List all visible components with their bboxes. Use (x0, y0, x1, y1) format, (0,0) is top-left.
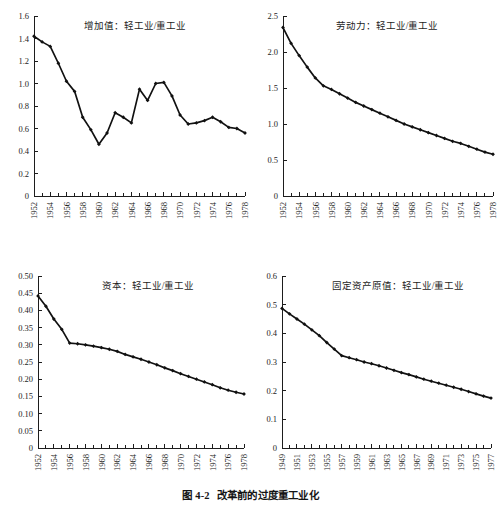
x-tick-label: 1958 (327, 202, 337, 219)
data-point (355, 358, 359, 362)
data-point (467, 390, 471, 394)
x-tick-label: 1956 (62, 202, 72, 219)
data-point (452, 385, 456, 389)
x-tick-label: 1972 (440, 202, 450, 219)
y-tick-label: 0.4 (18, 146, 29, 156)
data-point (84, 343, 88, 347)
x-tick-label: 1968 (407, 202, 417, 219)
x-tick-label: 1966 (143, 202, 153, 219)
series-line-fixed-assets (282, 308, 491, 398)
x-tick-label: 1962 (112, 454, 122, 471)
data-point (347, 356, 351, 360)
chart-svg-capital: 资本：轻工业/重工业00.050.100.150.200.250.300.350… (0, 250, 250, 478)
y-tick-label: 0.30 (18, 340, 33, 350)
data-point (377, 364, 381, 368)
x-tick-label: 1960 (343, 202, 353, 219)
panel-labor: 劳动力：轻工业/重工业00.51.01.52.02.51952195419561… (250, 0, 501, 250)
data-point (242, 392, 246, 396)
x-tick-label: 1974 (208, 453, 218, 471)
data-point (474, 392, 478, 396)
caption-text: 改革前的过度重工业化 (217, 490, 319, 501)
data-point (414, 375, 418, 379)
y-tick-label: 0.6 (266, 271, 277, 281)
x-tick-label: 1967 (412, 454, 422, 471)
data-point (489, 396, 493, 400)
y-tick-label: 0.6 (18, 124, 29, 134)
x-tick-label: 1957 (337, 454, 347, 471)
y-tick-label: 0 (25, 191, 29, 201)
x-tick-label: 1968 (160, 454, 170, 471)
x-tick-label: 1969 (426, 454, 436, 471)
x-tick-label: 1958 (81, 454, 91, 471)
data-point (99, 346, 103, 350)
y-tick-label: 1.6 (18, 11, 29, 21)
x-tick-label: 1960 (94, 202, 104, 219)
data-point (131, 355, 135, 359)
data-point (459, 387, 463, 391)
y-tick-label: 0.5 (266, 300, 277, 310)
panel-grid: 增加值：轻工业/重工业00.20.40.60.81.01.21.41.61952… (0, 0, 501, 478)
y-tick-label: 1.2 (18, 56, 29, 66)
data-point (92, 344, 96, 348)
x-tick-label: 1955 (322, 454, 332, 471)
y-tick-label: 0.2 (266, 386, 277, 396)
y-tick-label: 0.4 (266, 328, 277, 338)
x-tick-label: 1954 (45, 201, 55, 219)
x-tick-label: 1972 (192, 454, 202, 471)
y-tick-label: 0.50 (18, 271, 33, 281)
chart-title-fixed-assets: 固定资产原值：轻工业/重工业 (332, 280, 465, 291)
x-tick-label: 1964 (128, 453, 138, 471)
x-tick-label: 1952 (33, 454, 43, 471)
y-tick-label: 0.25 (18, 357, 33, 367)
x-tick-label: 1961 (367, 454, 377, 471)
y-tick-label: 0 (273, 443, 277, 453)
data-point (392, 368, 396, 372)
x-tick-label: 1954 (294, 201, 304, 219)
x-tick-label: 1968 (159, 202, 169, 219)
x-tick-label: 1974 (208, 201, 218, 219)
data-point (422, 377, 426, 381)
x-tick-label: 1956 (311, 202, 321, 219)
x-tick-label: 1975 (471, 454, 481, 471)
x-tick-label: 1974 (456, 201, 466, 219)
x-tick-label: 1978 (240, 202, 250, 219)
x-tick-label: 1970 (175, 202, 185, 219)
data-point (407, 373, 411, 377)
y-tick-label: 0.10 (18, 409, 33, 419)
y-tick-label: 2.5 (267, 11, 278, 21)
x-tick-label: 1976 (472, 202, 482, 219)
panel-value-added: 增加值：轻工业/重工业00.20.40.60.81.01.21.41.61952… (0, 0, 250, 250)
data-point (491, 152, 495, 156)
x-tick-label: 1977 (486, 454, 496, 471)
y-tick-label: 0.1 (266, 414, 277, 424)
x-tick-label: 1970 (176, 454, 186, 471)
data-point (107, 347, 111, 351)
x-tick-label: 1962 (359, 202, 369, 219)
data-point (385, 366, 389, 370)
x-tick-label: 1952 (29, 202, 39, 219)
y-tick-label: 0.2 (18, 169, 29, 179)
data-point (370, 362, 374, 366)
data-point (400, 371, 404, 375)
y-tick-label: 1.0 (267, 119, 278, 129)
y-tick-label: 1.4 (18, 34, 29, 44)
y-tick-label: 1.0 (18, 79, 29, 89)
data-point (234, 390, 238, 394)
y-tick-label: 0.45 (18, 288, 33, 298)
chart-title-value-added: 增加值：轻工业/重工业 (84, 20, 187, 31)
caption-number: 图 4-2 (182, 490, 210, 501)
y-tick-label: 0.35 (18, 323, 33, 333)
x-tick-label: 1962 (110, 202, 120, 219)
x-tick-label: 1959 (352, 454, 362, 471)
x-tick-label: 1964 (127, 201, 137, 219)
x-tick-label: 1976 (223, 454, 233, 471)
panel-capital: 资本：轻工业/重工业00.050.100.150.200.250.300.350… (0, 250, 250, 478)
figure-container: 增加值：轻工业/重工业00.20.40.60.81.01.21.41.61952… (0, 0, 501, 507)
x-tick-label: 1965 (397, 454, 407, 471)
x-tick-label: 1973 (456, 454, 466, 471)
series-line-labor (283, 28, 493, 155)
x-tick-label: 1951 (292, 454, 302, 471)
x-tick-label: 1958 (78, 202, 88, 219)
x-tick-label: 1971 (441, 454, 451, 471)
y-tick-label: 1.5 (267, 83, 278, 93)
